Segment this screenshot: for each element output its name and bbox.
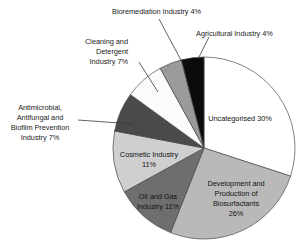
label-cleaning-and-detergent-industry: Cleaning and Detergent Industry 7%: [85, 37, 128, 66]
svg-text:Development and: Development and: [207, 179, 264, 188]
svg-text:11%: 11%: [142, 160, 157, 169]
label-antimicrobial-antifungal-biofilm-industry: Antimicrobial, Antifungal and Biofilm Pr…: [11, 103, 70, 142]
svg-text:Cleaning and: Cleaning and: [85, 37, 128, 46]
svg-text:Cosmetic Industry: Cosmetic Industry: [120, 150, 179, 159]
leader-line-bioremediation: [159, 19, 182, 62]
label-agricultural-industry: Agricultural Industry 4%: [196, 29, 273, 38]
label-uncategorised: Uncategorised 30%: [208, 114, 272, 123]
label-oil-and-gas-industry: Oil and Gas Industry 11%: [137, 192, 179, 211]
pie-chart-figure: Bioremediation Industry 4% Agricultural …: [0, 0, 304, 252]
svg-text:Industry 11%: Industry 11%: [137, 202, 179, 211]
svg-text:Biosurfactants: Biosurfactants: [213, 199, 259, 208]
svg-text:Industry 7%: Industry 7%: [21, 133, 60, 142]
label-bioremediation-industry: Bioremediation Industry 4%: [112, 7, 202, 16]
pie-chart-svg: Bioremediation Industry 4% Agricultural …: [0, 0, 304, 252]
svg-text:Oil and Gas: Oil and Gas: [139, 192, 178, 201]
svg-text:Biofilm Prevention: Biofilm Prevention: [11, 123, 70, 132]
pie-slices: [113, 57, 295, 239]
svg-text:Production of: Production of: [215, 189, 259, 198]
svg-text:26%: 26%: [229, 209, 244, 218]
svg-text:Industry 7%: Industry 7%: [90, 57, 129, 66]
leader-line-agricultural: [199, 37, 209, 57]
svg-text:Detergent: Detergent: [96, 47, 128, 56]
svg-text:Antimicrobial,: Antimicrobial,: [18, 103, 62, 112]
svg-text:Antifungal and: Antifungal and: [17, 113, 64, 122]
